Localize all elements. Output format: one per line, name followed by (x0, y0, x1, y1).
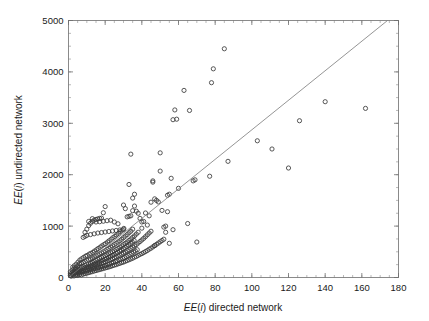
x-tick-label: 120 (281, 282, 297, 293)
x-axis-title: EE(i) directed network (184, 302, 283, 313)
x-tick-label: 160 (354, 282, 370, 293)
y-tick-label: 3000 (42, 118, 63, 129)
figure-background (0, 0, 429, 321)
x-tick-label: 60 (173, 282, 184, 293)
x-tick-label: 0 (66, 282, 71, 293)
x-tick-label: 140 (317, 282, 333, 293)
scatter-plot-figure: 020406080100120140160180 010002000300040… (0, 0, 429, 321)
x-tick-label: 40 (137, 282, 148, 293)
y-axis-title: EE(i) undirected network (13, 94, 24, 205)
y-tick-label: 2000 (42, 169, 63, 180)
y-tick-label: 0 (58, 272, 63, 283)
plot-canvas: 020406080100120140160180 010002000300040… (0, 0, 429, 321)
y-tick-label: 1000 (42, 221, 63, 232)
x-tick-label: 100 (244, 282, 260, 293)
x-tick-label: 180 (391, 282, 407, 293)
x-tick-label: 80 (210, 282, 221, 293)
y-tick-label: 5000 (42, 15, 63, 26)
x-tick-label: 20 (100, 282, 111, 293)
y-tick-label: 4000 (42, 66, 63, 77)
